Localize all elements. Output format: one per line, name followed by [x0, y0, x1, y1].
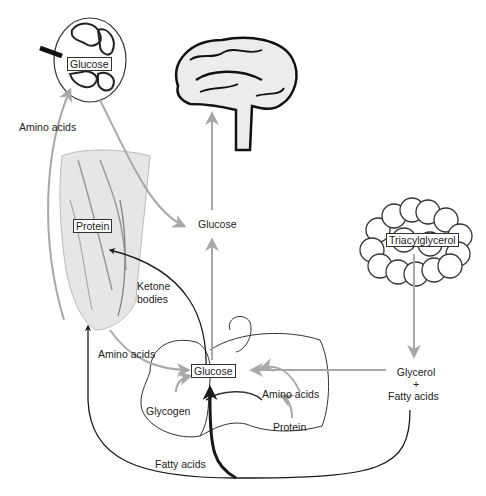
liver-glucose-label: Glucose — [191, 364, 236, 378]
fatty-acids-right-label: Fatty acids — [388, 390, 439, 402]
kidney-glucose-label: Glucose — [67, 57, 112, 71]
diagram-canvas — [0, 0, 486, 496]
amino-acids-mid-label: Amino acids — [98, 348, 155, 360]
fuel-metabolism-diagram: Glucose Amino acids Glucose Protein Keto… — [0, 0, 486, 496]
ketone-label: Ketone — [137, 280, 170, 292]
brain-icon — [176, 38, 296, 150]
liver-protein-label: Protein — [273, 421, 306, 433]
muscle-protein-label: Protein — [73, 219, 112, 233]
glycogen-label: Glycogen — [146, 405, 190, 417]
fatty-acids-bottom-label: Fatty acids — [155, 458, 206, 470]
glycerol-label: Glycerol — [394, 366, 438, 378]
plus-label: + — [394, 378, 438, 390]
bodies-label: bodies — [137, 293, 168, 305]
amino-acids-top-label: Amino acids — [19, 121, 76, 133]
brain-glucose-label: Glucose — [198, 218, 237, 230]
liver-amino-acids-label: Amino acids — [262, 388, 319, 400]
triacylglycerol-label: Triacylglycerol — [386, 233, 459, 247]
